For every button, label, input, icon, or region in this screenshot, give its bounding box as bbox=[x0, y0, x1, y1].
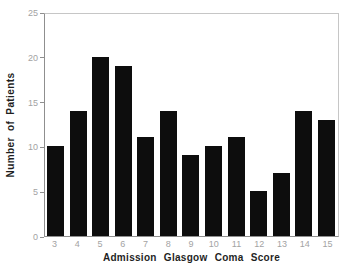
bar-gcs-8 bbox=[160, 111, 177, 236]
bar-gcs-5 bbox=[92, 57, 109, 236]
bar-gcs-14 bbox=[295, 111, 312, 236]
x-tick-label: 8 bbox=[160, 239, 177, 249]
x-tick-label: 4 bbox=[69, 239, 86, 249]
y-tick-label: 0 bbox=[33, 232, 38, 242]
bars-container bbox=[45, 14, 338, 236]
x-tick-label: 7 bbox=[137, 239, 154, 249]
y-tick-label: 10 bbox=[28, 142, 38, 152]
x-axis-tick-labels: 3456789101112131415 bbox=[44, 239, 339, 249]
x-axis-title: Admission Glasgow Coma Score bbox=[44, 252, 339, 263]
y-tick: 5 bbox=[0, 187, 44, 197]
x-tick-label: 3 bbox=[46, 239, 63, 249]
bar-gcs-13 bbox=[273, 173, 290, 236]
y-tick: 25 bbox=[0, 8, 44, 18]
x-tick-label: 12 bbox=[251, 239, 268, 249]
bar-gcs-3 bbox=[47, 146, 64, 236]
x-tick-label: 9 bbox=[183, 239, 200, 249]
x-tick-label: 15 bbox=[319, 239, 336, 249]
y-tick-label: 25 bbox=[28, 8, 38, 18]
bar-gcs-11 bbox=[228, 137, 245, 236]
bar-gcs-6 bbox=[115, 66, 132, 236]
plot-area bbox=[44, 13, 339, 237]
y-tick: 15 bbox=[0, 98, 44, 108]
x-tick-label: 13 bbox=[274, 239, 291, 249]
x-tick-label: 5 bbox=[92, 239, 109, 249]
x-tick-label: 11 bbox=[228, 239, 245, 249]
bar-gcs-10 bbox=[205, 146, 222, 236]
x-tick-label: 10 bbox=[205, 239, 222, 249]
y-tick: 20 bbox=[0, 53, 44, 63]
bar-gcs-12 bbox=[250, 191, 267, 236]
y-tick: 10 bbox=[0, 142, 44, 152]
x-tick-label: 14 bbox=[296, 239, 313, 249]
y-tick: 0 bbox=[0, 232, 44, 242]
bar-chart-figure: Number of Patients 0510152025 3456789101… bbox=[0, 0, 349, 272]
y-tick-label: 20 bbox=[28, 53, 38, 63]
y-axis-title: Number of Patients bbox=[5, 73, 16, 178]
y-tick-label: 5 bbox=[33, 187, 38, 197]
bar-gcs-4 bbox=[70, 111, 87, 236]
bar-gcs-9 bbox=[182, 155, 199, 236]
y-tick-label: 15 bbox=[28, 98, 38, 108]
bar-gcs-15 bbox=[318, 120, 335, 236]
x-tick-label: 6 bbox=[114, 239, 131, 249]
bar-gcs-7 bbox=[137, 137, 154, 236]
